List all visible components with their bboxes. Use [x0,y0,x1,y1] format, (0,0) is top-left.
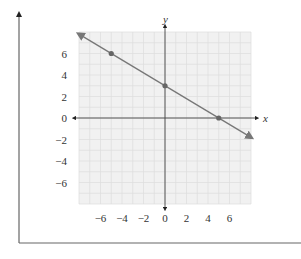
data-point [216,115,221,120]
y-axis-label: y [162,13,168,25]
y-tick-label: 0 [62,112,68,124]
x-tick-label: 6 [227,212,233,224]
y-tick-label: −4 [55,155,67,167]
x-tick-labels: −6−4−20246 [95,212,233,224]
x-tick-label: −4 [116,212,128,224]
data-point [109,51,114,56]
x-axis-label: x [262,112,268,124]
x-tick-label: 4 [205,212,211,224]
y-tick-label: −2 [55,134,67,146]
x-tick-label: 0 [162,212,168,224]
x-tick-label: −6 [95,212,107,224]
coordinate-plane-figure: −6−4−20246 6420−2−4−6 x y [0,0,301,259]
y-tick-labels: 6420−2−4−6 [55,48,67,189]
x-tick-label: 2 [184,212,190,224]
y-tick-label: −6 [55,177,67,189]
data-point [162,83,167,88]
y-tick-label: 4 [62,69,68,81]
y-tick-label: 2 [62,91,68,103]
y-tick-label: 6 [62,48,68,60]
x-tick-label: −2 [138,212,150,224]
